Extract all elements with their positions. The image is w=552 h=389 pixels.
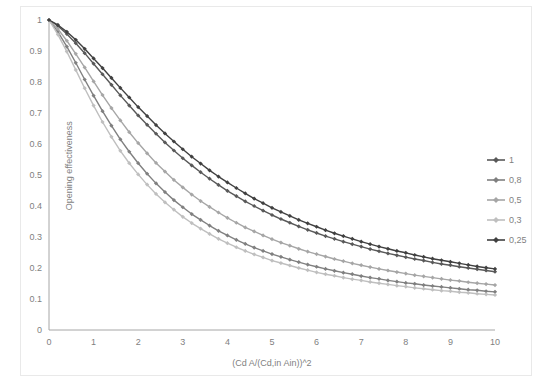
series-marker bbox=[279, 210, 283, 214]
y-tick-label: 0.5 bbox=[29, 170, 42, 180]
series-marker bbox=[341, 240, 345, 244]
series-marker bbox=[430, 288, 434, 292]
legend-marker-icon bbox=[493, 217, 499, 223]
series-marker bbox=[341, 271, 345, 275]
series-marker bbox=[493, 293, 497, 297]
y-tick-label: 0.8 bbox=[29, 77, 42, 87]
series-marker bbox=[404, 271, 408, 275]
series-marker bbox=[475, 292, 479, 296]
y-tick-label: 1 bbox=[37, 15, 42, 25]
x-tick-label: 3 bbox=[180, 337, 185, 347]
series-marker bbox=[306, 228, 310, 232]
y-tick-label: 0.9 bbox=[29, 46, 42, 56]
series-marker bbox=[457, 279, 461, 283]
series-marker bbox=[359, 274, 363, 278]
legend-item[interactable]: 0,8 bbox=[487, 175, 522, 185]
series-marker bbox=[484, 282, 488, 286]
series-marker bbox=[341, 276, 345, 280]
series-marker bbox=[448, 289, 452, 293]
series-marker bbox=[252, 252, 256, 256]
series-marker bbox=[270, 252, 274, 256]
series-marker bbox=[315, 231, 319, 235]
y-tick-label: 0.3 bbox=[29, 232, 42, 242]
series-marker bbox=[439, 258, 443, 262]
series-marker bbox=[252, 229, 256, 233]
series-marker bbox=[332, 237, 336, 241]
legend-label: 0,5 bbox=[509, 195, 522, 205]
series-marker bbox=[493, 283, 497, 287]
series-marker bbox=[234, 245, 238, 249]
series-marker bbox=[386, 247, 390, 251]
series-group bbox=[47, 18, 497, 297]
series-marker bbox=[252, 245, 256, 249]
series-marker bbox=[386, 282, 390, 286]
chart-figure: 00.10.20.30.40.50.60.70.80.9101234567891… bbox=[0, 0, 552, 389]
series-marker bbox=[439, 289, 443, 293]
series-marker bbox=[368, 242, 372, 246]
x-tick-label: 5 bbox=[269, 337, 274, 347]
x-tick-label: 8 bbox=[403, 337, 408, 347]
series-marker bbox=[430, 260, 434, 264]
legend-item[interactable]: 0,5 bbox=[487, 195, 522, 205]
y-tick-label: 0.6 bbox=[29, 139, 42, 149]
series-marker bbox=[243, 242, 247, 246]
legend-item[interactable]: 0,25 bbox=[487, 235, 527, 245]
series-marker bbox=[350, 242, 354, 246]
series-marker bbox=[297, 224, 301, 228]
series-marker bbox=[413, 253, 417, 257]
series-marker bbox=[279, 255, 283, 259]
series-marker bbox=[475, 264, 479, 268]
y-tick-label: 0 bbox=[37, 325, 42, 335]
series-marker bbox=[430, 276, 434, 280]
series-marker bbox=[306, 268, 310, 272]
series-marker bbox=[404, 285, 408, 289]
series-marker bbox=[377, 281, 381, 285]
series-marker bbox=[332, 231, 336, 235]
series-marker bbox=[368, 247, 372, 251]
series-marker bbox=[341, 234, 345, 238]
series-marker bbox=[288, 263, 292, 267]
series-marker bbox=[279, 240, 283, 244]
series-marker bbox=[332, 257, 336, 261]
legend-marker-icon bbox=[493, 177, 499, 183]
series-marker bbox=[430, 257, 434, 261]
series-marker bbox=[413, 282, 417, 286]
x-tick-label: 9 bbox=[448, 337, 453, 347]
series-marker bbox=[386, 278, 390, 282]
series-marker bbox=[279, 217, 283, 221]
series-marker bbox=[359, 278, 363, 282]
series-marker bbox=[439, 262, 443, 266]
series-marker bbox=[323, 267, 327, 271]
series-marker bbox=[350, 277, 354, 281]
x-tick-label: 6 bbox=[314, 337, 319, 347]
y-tick-label: 0.1 bbox=[29, 294, 42, 304]
series-marker bbox=[493, 267, 497, 271]
series-marker bbox=[359, 245, 363, 249]
series-marker bbox=[270, 237, 274, 241]
series-marker bbox=[377, 245, 381, 249]
legend-label: 0,3 bbox=[509, 215, 522, 225]
series-marker bbox=[350, 272, 354, 276]
legend-item[interactable]: 1 bbox=[487, 155, 514, 165]
series-marker bbox=[413, 257, 417, 261]
series-marker bbox=[484, 266, 488, 270]
series-0-8 bbox=[47, 18, 497, 294]
series-marker bbox=[261, 233, 265, 237]
series-marker bbox=[386, 251, 390, 255]
series-marker bbox=[439, 285, 443, 289]
series-marker bbox=[323, 234, 327, 238]
legend-item[interactable]: 0,3 bbox=[487, 215, 522, 225]
series-marker bbox=[261, 255, 265, 259]
series-marker bbox=[288, 258, 292, 262]
series-1 bbox=[47, 18, 497, 274]
series-marker bbox=[395, 284, 399, 288]
x-tick-label: 7 bbox=[359, 337, 364, 347]
series-marker bbox=[306, 249, 310, 253]
series-marker bbox=[413, 273, 417, 277]
series-marker bbox=[439, 277, 443, 281]
x-axis-title: (Cd A/(Cd,in Ain))^2 bbox=[232, 358, 311, 368]
series-marker bbox=[422, 283, 426, 287]
legend-marker-icon bbox=[493, 237, 499, 243]
series-line bbox=[49, 20, 495, 272]
series-marker bbox=[306, 262, 310, 266]
